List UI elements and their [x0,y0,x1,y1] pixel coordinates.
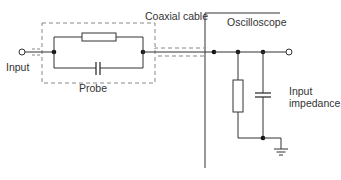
probe-resistor-icon [82,33,116,41]
ground-icon [274,149,288,155]
coax-shield [155,48,204,49]
oscilloscope-label: Oscilloscope [227,16,287,28]
input-label: Input [6,61,29,73]
probe-label: Probe [79,82,107,94]
output-terminal-icon [286,49,292,55]
input-impedance-label-line1: Input [289,85,312,97]
coaxial-cable-label: Coaxial cable [145,10,208,22]
input-terminal-icon [19,49,25,55]
input-impedance-label-line2: impedance [289,97,341,109]
scope-resistor-icon [233,80,243,112]
probe-boundary [42,23,155,83]
